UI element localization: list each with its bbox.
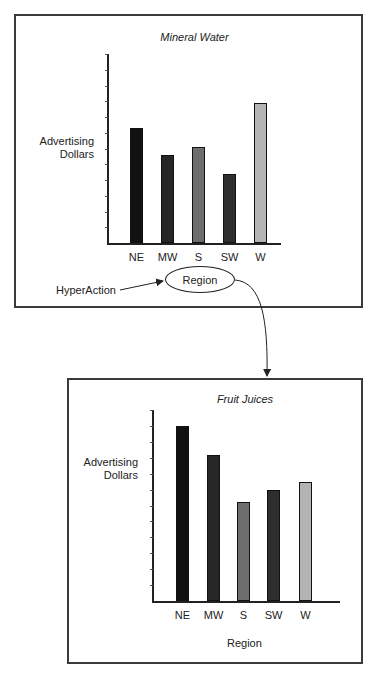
link-arrow — [235, 280, 267, 376]
hyperaction-arrow — [120, 281, 163, 290]
arrows-overlay — [0, 0, 376, 677]
